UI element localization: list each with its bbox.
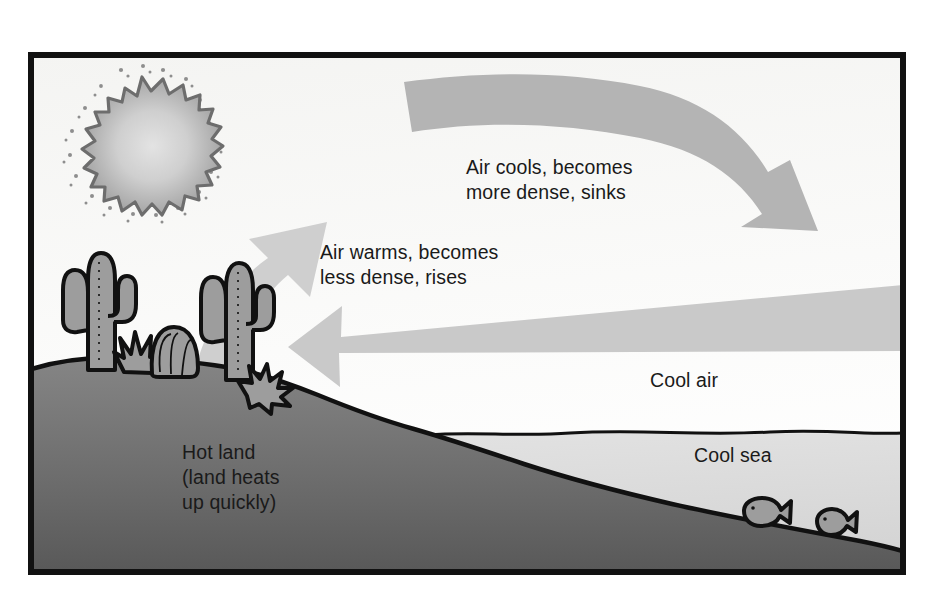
diagram-illustration (0, 0, 937, 605)
label-air-warms: Air warms, becomes less dense, rises (320, 240, 498, 290)
label-cool-sea: Cool sea (694, 443, 772, 468)
barrel-cactus (152, 327, 198, 377)
label-cool-air: Cool air (650, 368, 718, 393)
label-air-cools: Air cools, becomes more dense, sinks (466, 155, 633, 205)
label-hot-land: Hot land (land heats up quickly) (182, 440, 280, 515)
diagram-canvas: Air cools, becomes more dense, sinks Air… (0, 0, 937, 605)
